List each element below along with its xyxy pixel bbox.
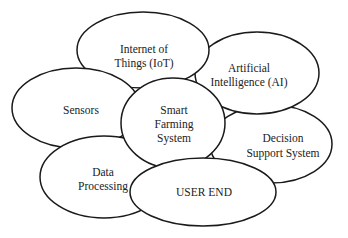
smart-farming-diagram: Decision Support System Artificial Intel… (0, 0, 348, 238)
node-user-end: USER END (130, 158, 276, 226)
label-ai-line1: Artificial (228, 62, 270, 74)
label-data-line2: Processing (78, 180, 128, 193)
label-iot-line1: Internet of (120, 43, 168, 55)
label-center-line1: Smart (160, 104, 188, 116)
label-center-line3: System (157, 132, 191, 145)
label-center-line2: Farming (155, 118, 194, 131)
label-iot-line2: Things (IoT) (114, 57, 173, 70)
label-decision-line1: Decision (263, 132, 304, 144)
label-ai-line2: Intelligence (AI) (211, 76, 288, 89)
label-user-end: USER END (176, 186, 232, 198)
node-sensors: Sensors (12, 68, 140, 148)
label-sensors: Sensors (63, 104, 99, 116)
label-decision-line2: Support System (246, 147, 319, 160)
node-smart-farming-system: Smart Farming System (121, 78, 225, 168)
label-data-line1: Data (92, 166, 114, 178)
